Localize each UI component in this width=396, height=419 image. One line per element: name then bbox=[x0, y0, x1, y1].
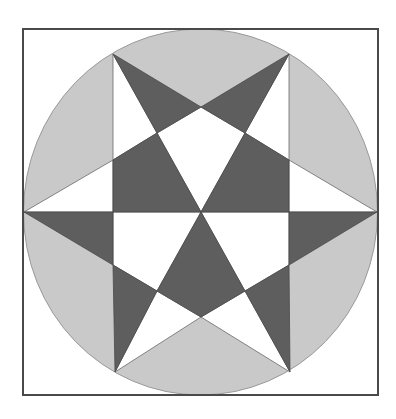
star-pattern-figure bbox=[0, 0, 396, 419]
